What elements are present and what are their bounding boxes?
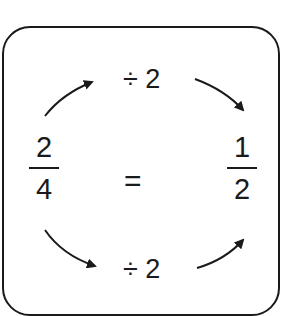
left-fraction: 2 4 xyxy=(24,133,64,204)
left-fraction-bar xyxy=(29,167,59,169)
top-right-arrow-icon xyxy=(195,79,243,110)
top-divide-operation: ÷ 2 xyxy=(123,66,160,93)
right-fraction: 1 2 xyxy=(222,133,262,204)
equals-sign: = xyxy=(124,166,142,196)
right-fraction-bar xyxy=(227,167,257,169)
top-left-arrow-icon xyxy=(45,82,92,116)
bottom-divide-operation: ÷ 2 xyxy=(123,256,160,283)
right-numerator: 1 xyxy=(222,133,262,162)
bottom-left-arrow-icon xyxy=(45,230,95,266)
left-numerator: 2 xyxy=(24,133,64,162)
left-denominator: 4 xyxy=(24,175,64,204)
right-denominator: 2 xyxy=(222,175,262,204)
bottom-right-arrow-icon xyxy=(197,240,243,268)
